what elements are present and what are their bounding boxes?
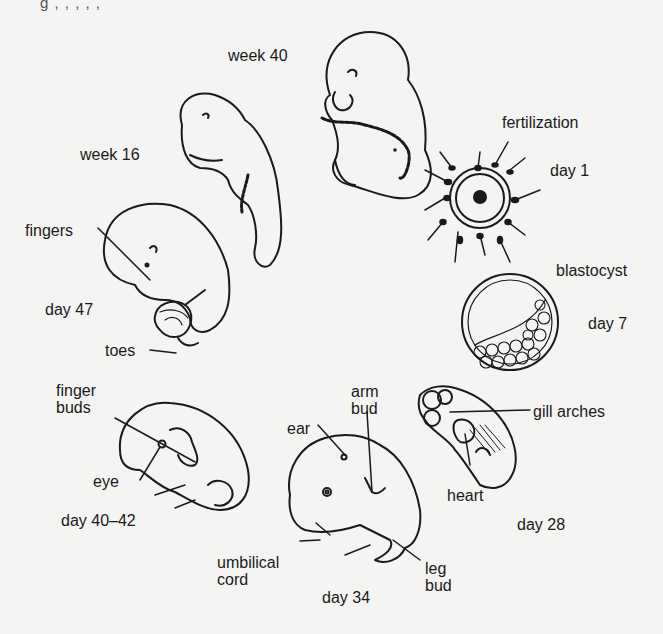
label-umbilical-cord: umbilical cord <box>217 554 279 588</box>
fertilized-egg-drawing <box>425 142 540 262</box>
embryo-day-40-42-drawing <box>115 403 249 510</box>
label-leg-bud: leg bud <box>425 560 452 594</box>
label-finger-buds: finger buds <box>56 382 96 416</box>
fetus-week-16-drawing <box>181 94 282 267</box>
embryo-day-28-drawing <box>419 386 530 488</box>
label-fertilization: fertilization <box>502 114 578 131</box>
label-day-7: day 7 <box>588 315 627 332</box>
label-eye: eye <box>93 473 119 490</box>
label-fingers: fingers <box>25 222 73 239</box>
label-heart: heart <box>447 487 483 504</box>
label-toes: toes <box>105 342 135 359</box>
label-day-28: day 28 <box>517 516 565 533</box>
label-blastocyst: blastocyst <box>556 262 627 279</box>
label-ear: ear <box>287 420 310 437</box>
embryo-day-47-drawing <box>98 204 229 353</box>
fetus-week-40-drawing <box>322 32 431 198</box>
blastocyst-drawing <box>462 274 558 370</box>
illustrations <box>0 0 663 634</box>
label-week-40: week 40 <box>228 47 288 64</box>
label-week-16: week 16 <box>80 146 140 163</box>
embryo-development-diagram: g , , , , , <box>0 0 663 634</box>
label-gill-arches: gill arches <box>533 403 605 420</box>
label-day-34: day 34 <box>322 589 370 606</box>
label-day-1: day 1 <box>550 162 589 179</box>
label-day-40-42: day 40–42 <box>61 512 136 529</box>
label-arm-bud: arm bud <box>351 383 379 417</box>
label-day-47: day 47 <box>45 301 93 318</box>
